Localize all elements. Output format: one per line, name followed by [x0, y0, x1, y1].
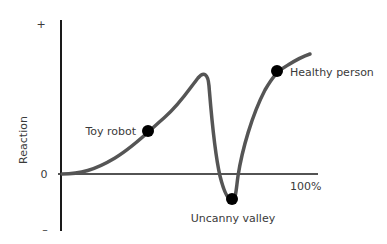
toy-robot-label: Toy robot: [84, 125, 136, 138]
uncanny-valley-label: Uncanny valley: [191, 212, 276, 225]
y-axis-title: Reaction: [17, 116, 30, 164]
y-plus-label: +: [36, 18, 45, 31]
toy-robot-point: [142, 125, 154, 137]
x-end-label: 100%: [290, 180, 321, 193]
healthy-person-point: [271, 65, 283, 77]
healthy-person-label: Healthy person: [290, 66, 374, 79]
uncanny-valley-point: [226, 193, 238, 205]
y-minus-label: –: [42, 223, 48, 236]
y-zero-label: 0: [41, 168, 48, 181]
uncanny-valley-chart: + 0 – Reaction 100% Toy robot Uncanny va…: [0, 0, 387, 244]
